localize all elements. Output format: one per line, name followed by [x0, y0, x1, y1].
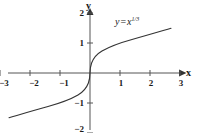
x-tick-label-2: 2 [145, 79, 157, 88]
x-tick-label-3: 3 [175, 79, 187, 88]
y-tick-label--2: −2 [68, 125, 84, 133]
x-tick-label--2: −2 [26, 79, 42, 88]
equation-annotation: y=x1/3 [115, 16, 139, 27]
y-tick-label--1: −1 [68, 99, 84, 108]
x-tick-label-1: 1 [115, 79, 127, 88]
y-axis-label: y [86, 1, 91, 11]
cube-root-function-graph: −3 −2 −1 1 2 3 2 1 −1 −2 x y y=x1/3 [0, 0, 197, 133]
x-axis-label: x [186, 68, 191, 78]
plot-canvas [0, 0, 197, 133]
equation-equals: = [119, 16, 127, 27]
y-tick-label-2: 2 [72, 9, 84, 18]
x-tick-label--3: −3 [0, 79, 12, 88]
equation-exponent: 1/3 [132, 16, 140, 22]
y-tick-label-1: 1 [72, 39, 84, 48]
x-tick-label--1: −1 [56, 79, 72, 88]
